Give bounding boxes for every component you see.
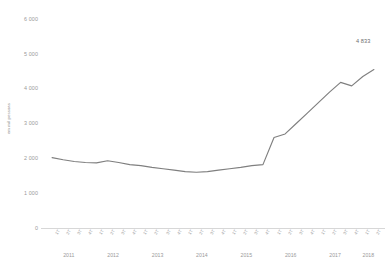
series-line-svg xyxy=(41,19,385,228)
x-axis-year-label: 2015 xyxy=(241,252,253,258)
x-axis-quarter-label: 1T xyxy=(98,229,105,236)
x-axis-year-label: 2016 xyxy=(285,252,297,258)
x-axis-year-labels: 20112012201320142015201620172018 xyxy=(41,252,385,266)
y-axis-tick-label: 6 000 xyxy=(4,16,38,22)
x-axis-year-label: 2017 xyxy=(329,252,341,258)
data-label-last-point: 4 833 xyxy=(356,38,371,44)
x-axis-quarter-label: 4T xyxy=(87,229,94,236)
x-axis-quarter-label: 1T xyxy=(142,229,149,236)
x-axis-year-label: 2018 xyxy=(363,252,375,258)
y-axis-tick-label: 3 000 xyxy=(4,120,38,126)
x-axis-quarter-label: 1T xyxy=(364,229,371,236)
x-axis-quarter-label: 3T xyxy=(253,229,260,236)
y-axis-tick-label: 2 000 xyxy=(4,155,38,161)
x-axis-quarter-label: 3T xyxy=(120,229,127,236)
x-axis-quarter-label: 4T xyxy=(220,229,227,236)
x-axis-year-label: 2011 xyxy=(63,252,74,258)
x-axis-quarter-label: 2T xyxy=(198,229,205,236)
series-line xyxy=(52,70,374,173)
x-axis-quarter-label: 3T xyxy=(209,229,216,236)
x-axis-quarter-label: 2T xyxy=(375,229,382,236)
x-axis-quarter-label: 4T xyxy=(176,229,183,236)
x-axis-quarter-label: 2T xyxy=(287,229,294,236)
plot-area xyxy=(41,19,385,228)
x-axis-quarter-label: 4T xyxy=(131,229,138,236)
x-axis-quarter-label: 2T xyxy=(65,229,72,236)
x-axis-quarter-label: 3T xyxy=(298,229,305,236)
y-axis-tick-label: 0 xyxy=(4,225,38,231)
x-axis-quarter-label: 1T xyxy=(54,229,61,236)
x-axis-quarter-label: 4T xyxy=(309,229,316,236)
x-axis-year-label: 2013 xyxy=(152,252,164,258)
x-axis-quarter-label: 1T xyxy=(276,229,283,236)
x-axis-quarter-labels: 1T2T3T4T1T2T3T4T1T2T3T4T1T2T3T4T1T2T3T4T… xyxy=(41,230,385,248)
x-axis-quarter-label: 1T xyxy=(231,229,238,236)
x-axis-year-label: 2014 xyxy=(196,252,208,258)
x-axis-quarter-label: 4T xyxy=(353,229,360,236)
x-axis-quarter-label: 2T xyxy=(242,229,249,236)
line-chart: em mil pessoas 01 0002 0003 0004 0005 00… xyxy=(0,0,389,277)
x-axis-quarter-label: 3T xyxy=(342,229,349,236)
x-axis-quarter-label: 3T xyxy=(76,229,83,236)
x-axis-quarter-label: 3T xyxy=(165,229,172,236)
x-axis-quarter-label: 4T xyxy=(264,229,271,236)
x-axis-quarter-label: 2T xyxy=(153,229,160,236)
y-axis-tick-label: 5 000 xyxy=(4,51,38,57)
x-axis-quarter-label: 1T xyxy=(187,229,194,236)
x-axis-quarter-label: 1T xyxy=(320,229,327,236)
y-axis-tick-label: 1 000 xyxy=(4,190,38,196)
y-axis-tick-label: 4 000 xyxy=(4,85,38,91)
y-axis-tick-labels: 01 0002 0003 0004 0005 0006 000 xyxy=(0,0,38,277)
x-axis-quarter-label: 2T xyxy=(331,229,338,236)
x-axis-quarter-label: 2T xyxy=(109,229,116,236)
x-axis-year-label: 2012 xyxy=(107,252,119,258)
